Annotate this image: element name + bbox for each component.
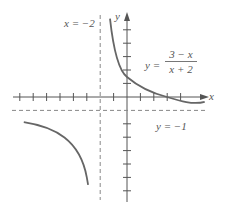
y-axis-label: y — [115, 11, 120, 22]
y-axis-arrow-icon — [124, 12, 130, 21]
equation-lhs: y = — [145, 60, 160, 71]
graph-canvas — [0, 0, 226, 206]
horizontal-asymptote-label: y = −1 — [156, 121, 187, 132]
equation-denominator: x + 2 — [165, 62, 197, 75]
left-branch-curve — [24, 122, 88, 185]
equation-fraction: 3 − x x + 2 — [165, 49, 197, 75]
x-axis-label: x — [209, 91, 214, 102]
vertical-asymptote-label: x = −2 — [64, 18, 95, 29]
equation-numerator: 3 − x — [165, 49, 197, 62]
y-axis — [123, 12, 131, 202]
x-axis-arrow-icon — [200, 94, 209, 100]
